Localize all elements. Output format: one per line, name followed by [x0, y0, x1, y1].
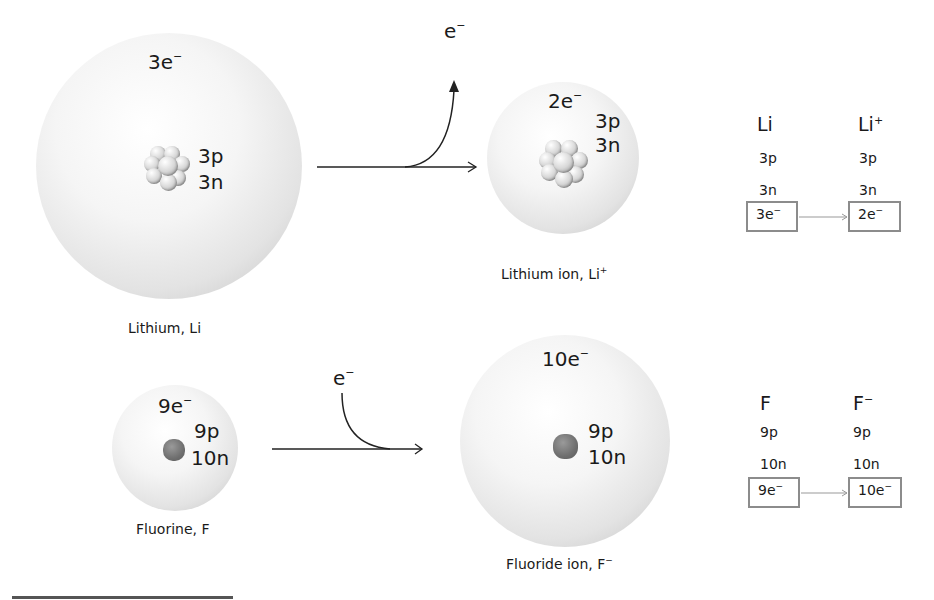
minus-sup: −	[605, 555, 613, 565]
electron-count: 2e	[858, 206, 876, 222]
lithium-table-atom-neutrons: 3n	[759, 182, 777, 198]
fluoride-ion-protons: 9p	[588, 420, 613, 442]
electron-count: 3e	[148, 50, 173, 74]
minus-sup: −	[183, 394, 192, 407]
lithium-table-head-ion: Li+	[858, 113, 883, 135]
lithium-atom-electrons: 3e−	[148, 51, 182, 73]
fluorine-table-atom-protons: 9p	[760, 424, 778, 440]
lithium-table-ion-neutrons: 3n	[859, 182, 877, 198]
fluoride-ion-electrons: 10e−	[542, 348, 589, 370]
lithium-atom-protons: 3p	[198, 145, 223, 167]
electron-symbol: e	[333, 366, 345, 390]
lithium-ion-neutrons: 3n	[595, 134, 620, 156]
lithium-reaction-arrow	[310, 60, 480, 180]
plus-sup: +	[600, 265, 608, 275]
ion-symbol: Li	[858, 113, 874, 135]
lithium-table-atom-protons: 3p	[759, 150, 777, 166]
minus-sup: −	[776, 481, 784, 491]
minus-sup: −	[345, 366, 354, 379]
minus-sup: −	[573, 89, 582, 102]
fluorine-reaction-arrow	[268, 385, 428, 465]
fluorine-atom-caption: Fluorine, F	[136, 521, 209, 537]
fluorine-atom-neutrons: 10n	[191, 447, 229, 469]
minus-sup: −	[580, 347, 589, 360]
minus-sup: −	[173, 50, 182, 63]
fluorine-atom-nucleus	[163, 439, 185, 461]
lithium-atom-nucleus	[144, 146, 194, 196]
caption-text: Lithium ion, Li	[501, 266, 600, 282]
fluoride-ion-nucleus	[553, 434, 578, 459]
footer-rule	[12, 596, 233, 599]
fluorine-table-ion-neutrons: 10n	[853, 456, 880, 472]
electron-count: 3e	[756, 206, 774, 222]
minus-sup: −	[774, 205, 782, 215]
lithium-lost-electron-label: e−	[444, 20, 466, 42]
fluorine-table-ion-electrons-box: 10e−	[848, 477, 902, 508]
fluoride-ion-caption: Fluoride ion, F−	[506, 555, 613, 572]
lithium-table-ion-protons: 3p	[859, 150, 877, 166]
electron-count: 10e	[542, 347, 580, 371]
fluorine-table-head-ion: F−	[853, 392, 873, 414]
lithium-atom-caption: Lithium, Li	[128, 320, 201, 336]
fluorine-table-atom-neutrons: 10n	[760, 456, 787, 472]
lithium-table-ion-electrons-box: 2e−	[848, 201, 901, 232]
electron-count: 2e	[548, 89, 573, 113]
fluoride-ion-neutrons: 10n	[588, 446, 626, 468]
lithium-ion-protons: 3p	[595, 110, 620, 132]
fluorine-atom-electrons: 9e−	[158, 395, 192, 417]
minus-sup: −	[884, 481, 892, 491]
caption-text: Fluoride ion, F	[506, 556, 605, 572]
electron-count: 9e	[758, 482, 776, 498]
lithium-atom-neutrons: 3n	[198, 171, 223, 193]
electron-count: 9e	[158, 394, 183, 418]
lithium-table-arrow	[798, 210, 850, 224]
fluorine-table-atom-electrons-box: 9e−	[748, 477, 800, 508]
minus-sup: −	[456, 19, 465, 32]
electron-symbol: e	[444, 19, 456, 43]
lithium-ion-nucleus	[539, 140, 591, 192]
minus-sup: −	[864, 393, 873, 406]
minus-sup: −	[876, 205, 884, 215]
fluorine-table-arrow	[800, 486, 850, 500]
fluorine-table-ion-protons: 9p	[853, 424, 871, 440]
lithium-table-atom-electrons-box: 3e−	[746, 201, 798, 232]
ion-symbol: F	[853, 392, 864, 414]
electron-count: 10e	[858, 482, 884, 498]
fluorine-atom-protons: 9p	[194, 420, 219, 442]
fluorine-gained-electron-label: e−	[333, 367, 355, 389]
lithium-ion-electrons: 2e−	[548, 90, 582, 112]
lithium-ion-caption: Lithium ion, Li+	[501, 265, 607, 282]
fluorine-table-head-atom: F	[760, 392, 771, 414]
lithium-table-head-atom: Li	[757, 113, 773, 135]
plus-sup: +	[874, 114, 883, 127]
